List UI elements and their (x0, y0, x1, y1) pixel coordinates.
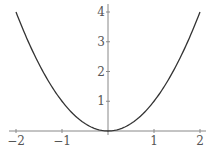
y-tick-label: 1 (97, 94, 105, 108)
x-tick-label: −1 (53, 134, 71, 148)
x-tick-label: 2 (196, 134, 204, 148)
y-tick-label: 2 (97, 65, 105, 79)
x-tick-label: −2 (7, 134, 25, 148)
axes (9, 4, 206, 135)
y-tick-label: 3 (97, 35, 105, 49)
parabola-plot: −2−1121234 (0, 0, 212, 151)
x-tick-label: 1 (150, 134, 158, 148)
tick-labels: −2−1121234 (7, 5, 204, 148)
y-tick-label: 4 (97, 5, 105, 19)
